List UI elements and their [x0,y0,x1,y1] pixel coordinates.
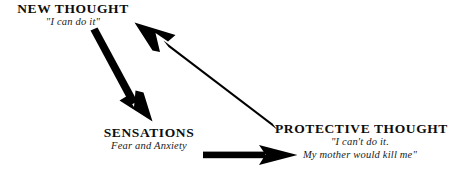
node-new-thought-title: NEW THOUGHT [8,2,138,16]
node-protective-thought-subtitle-line-1: "I can't do it. [275,136,445,149]
node-protective-thought-title: PROTECTIVE THOUGHT [275,122,445,136]
arrow-protective-thought-to-new-thought [135,23,278,130]
node-sensations: SENSATIONS Fear and Anxiety [95,126,203,153]
node-new-thought: NEW THOUGHT "I can do it" [8,2,138,29]
node-protective-thought-subtitle-line-2: My mother would kill me" [275,149,445,162]
node-protective-thought: PROTECTIVE THOUGHT "I can't do it. My mo… [275,122,445,161]
node-sensations-title: SENSATIONS [95,126,203,140]
arrow-new-thought-to-sensations [91,28,153,122]
node-sensations-subtitle: Fear and Anxiety [95,140,203,153]
cycle-diagram: NEW THOUGHT "I can do it" SENSATIONS Fea… [0,0,456,182]
node-new-thought-subtitle: "I can do it" [8,16,138,29]
